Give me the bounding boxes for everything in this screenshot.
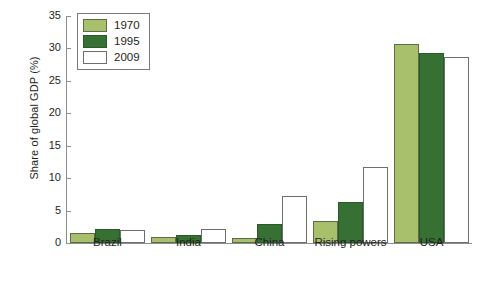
legend-item-1995: 1995: [83, 35, 140, 48]
bar-group: [391, 16, 472, 243]
bar-group-bars: [310, 16, 391, 243]
y-tick-label: 20: [21, 106, 61, 118]
bar-chart: Share of global GDP (%) 35302520151050 B…: [0, 0, 478, 281]
legend-label-1970: 1970: [114, 20, 140, 32]
y-tick-label: 10: [21, 171, 61, 183]
bar-usa-1970: [394, 44, 419, 243]
legend: 197019952009: [77, 13, 150, 70]
bar-group: [229, 16, 310, 243]
legend-swatch-icon-1970: [83, 19, 107, 32]
y-tick-label: 35: [21, 9, 61, 21]
y-tick-label: 15: [21, 139, 61, 151]
legend-label-1995: 1995: [114, 36, 140, 48]
bar-usa-2009: [444, 57, 469, 243]
legend-label-2009: 2009: [114, 52, 140, 64]
bar-usa-1995: [419, 53, 444, 243]
bar-rising-powers-2009: [363, 167, 388, 243]
bar-group: [148, 16, 229, 243]
bar-group: [310, 16, 391, 243]
legend-swatch-icon-1995: [83, 35, 107, 48]
y-tick-label: 25: [21, 74, 61, 86]
y-tick-label: 5: [21, 204, 61, 216]
bar-group-bars: [148, 16, 229, 243]
legend-item-2009: 2009: [83, 51, 140, 64]
bar-group-bars: [391, 16, 472, 243]
x-axis-label-usa: USA: [362, 236, 478, 248]
y-tick-label: 30: [21, 41, 61, 53]
legend-swatch-icon-2009: [83, 51, 107, 64]
legend-item-1970: 1970: [83, 19, 140, 32]
bar-group-bars: [229, 16, 310, 243]
